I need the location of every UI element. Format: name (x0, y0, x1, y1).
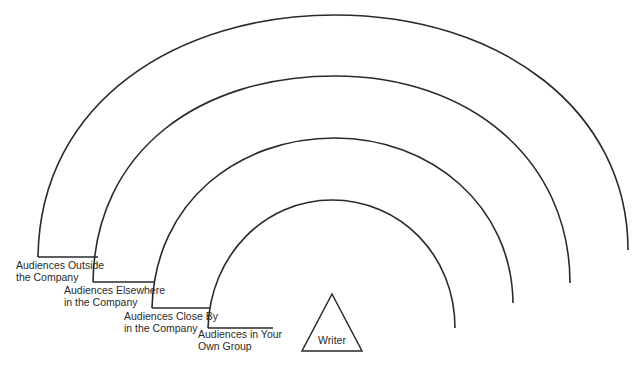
label-outside-line2: the Company (16, 271, 79, 283)
writer-node: Writer (302, 294, 362, 351)
label-elsewhere-line1: Audiences Elsewhere (64, 284, 165, 296)
label-outside-line1: Audiences Outside (16, 259, 104, 271)
label-close-by-line2: in the Company (124, 322, 198, 334)
ring-elsewhere: Audiences Elsewhere in the Company (64, 76, 570, 308)
label-own-group-line2: Own Group (198, 340, 252, 352)
arc-elsewhere (93, 76, 570, 283)
writer-label: Writer (318, 334, 346, 346)
ring-close-by: Audiences Close By in the Company (124, 138, 513, 334)
label-close-by-line1: Audiences Close By (124, 310, 219, 322)
arc-close-by (152, 138, 513, 308)
ring-outside: Audiences Outside the Company (16, 15, 628, 283)
audience-diagram: Audiences Outside the Company Audiences … (0, 0, 642, 371)
label-own-group-line1: Audiences in Your (198, 328, 283, 340)
label-elsewhere-line2: in the Company (64, 296, 138, 308)
arc-outside (38, 15, 628, 257)
